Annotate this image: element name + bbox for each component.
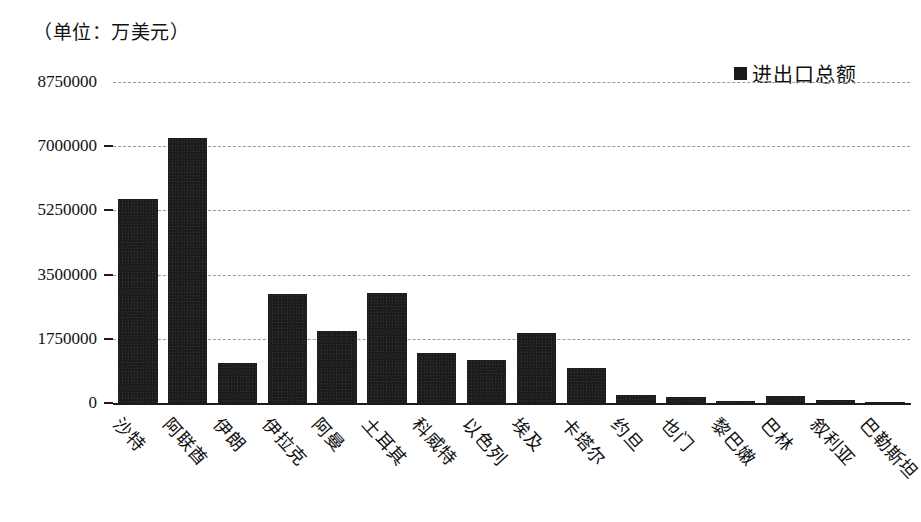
y-axis-tick-label: 5250000 bbox=[38, 200, 98, 220]
bar bbox=[317, 331, 356, 403]
y-axis-tick-mark bbox=[104, 274, 113, 276]
x-axis-category-label: 阿曼 bbox=[308, 411, 352, 456]
bar-chart: （单位：万美元） 进出口总额 0175000035000005250000700… bbox=[0, 0, 921, 522]
x-axis-category-label: 伊拉克 bbox=[258, 411, 314, 470]
bar bbox=[118, 199, 157, 403]
x-axis-category-label: 巴林 bbox=[756, 411, 800, 456]
y-axis-tick-label: 1750000 bbox=[38, 329, 98, 349]
x-axis-category-label: 也门 bbox=[657, 411, 701, 456]
plot-area bbox=[113, 82, 910, 403]
bar bbox=[168, 138, 207, 403]
bar bbox=[766, 396, 805, 403]
y-axis-tick-label: 8750000 bbox=[38, 72, 98, 92]
x-axis-category-label: 阿联酋 bbox=[158, 411, 214, 470]
x-axis-category-label: 巴勒斯坦 bbox=[856, 411, 921, 483]
legend-swatch-icon bbox=[734, 67, 747, 80]
bar bbox=[567, 368, 606, 403]
x-axis-category-label: 沙特 bbox=[109, 411, 153, 456]
x-axis-category-label: 埃及 bbox=[507, 411, 551, 456]
x-axis-category-label: 约旦 bbox=[607, 411, 651, 456]
y-axis-tick-mark bbox=[104, 402, 113, 404]
gridline bbox=[113, 210, 910, 211]
y-axis-tick-mark bbox=[104, 209, 113, 211]
x-axis-category-label: 以色列 bbox=[457, 411, 513, 470]
x-axis-category-label: 伊朗 bbox=[208, 411, 252, 456]
gridline bbox=[113, 82, 910, 83]
bar bbox=[616, 395, 655, 403]
x-axis-labels: 沙特阿联酋伊朗伊拉克阿曼土耳其科威特以色列埃及卡塔尔约旦也门黎巴嫩巴林叙利亚巴勒… bbox=[113, 403, 921, 522]
gridline bbox=[113, 275, 910, 276]
bar bbox=[218, 363, 257, 403]
y-axis-tick-mark bbox=[104, 145, 113, 147]
y-axis-tick-label: 3500000 bbox=[38, 265, 98, 285]
x-axis-category-label: 土耳其 bbox=[358, 411, 414, 470]
x-axis-category-label: 科威特 bbox=[407, 411, 463, 470]
bar bbox=[417, 353, 456, 403]
bar bbox=[367, 293, 406, 403]
y-axis: 017500003500000525000070000008750000 bbox=[0, 0, 105, 522]
x-axis-category-label: 黎巴嫩 bbox=[706, 411, 762, 470]
y-axis-tick-mark bbox=[104, 338, 113, 340]
gridline bbox=[113, 146, 910, 147]
y-axis-tick-label: 0 bbox=[89, 393, 98, 413]
bar bbox=[268, 294, 307, 403]
y-axis-tick-label: 7000000 bbox=[38, 136, 98, 156]
x-axis-category-label: 叙利亚 bbox=[806, 411, 862, 470]
bar bbox=[517, 333, 556, 403]
gridline bbox=[113, 339, 910, 340]
x-axis-category-label: 卡塔尔 bbox=[557, 411, 613, 470]
bar bbox=[467, 360, 506, 403]
